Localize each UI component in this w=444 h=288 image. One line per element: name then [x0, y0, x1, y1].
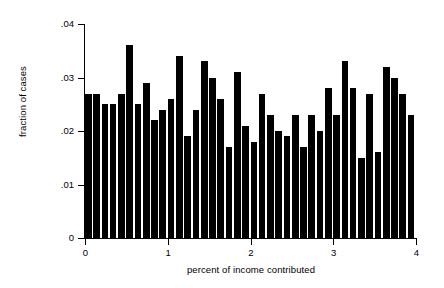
plot-area	[85, 24, 416, 238]
y-axis-tick: 0	[78, 238, 84, 239]
histogram-bar	[85, 94, 92, 238]
histogram-figure: fraction of cases 0.01.02.03.04 01234 pe…	[0, 0, 444, 288]
y-axis-title: fraction of cases	[17, 54, 28, 150]
histogram-bar	[366, 94, 373, 238]
x-axis-tick: 0	[85, 239, 86, 245]
histogram-bar	[317, 131, 324, 238]
histogram-bar	[292, 115, 299, 238]
histogram-bar	[234, 72, 241, 238]
y-axis-tick-label: .02	[61, 125, 78, 136]
histogram-bar	[209, 78, 216, 239]
y-axis-tick: .01	[78, 185, 84, 186]
histogram-bar	[110, 104, 117, 238]
y-axis-tick-label: .03	[61, 72, 78, 83]
histogram-bar	[350, 88, 357, 238]
histogram-bar	[333, 115, 340, 238]
y-axis-tick: .03	[78, 78, 84, 79]
x-axis-tick-label: 0	[75, 247, 96, 258]
x-axis-tick-label: 4	[406, 247, 427, 258]
histogram-bar	[135, 104, 142, 238]
histogram-bar	[275, 131, 282, 238]
histogram-bar	[383, 67, 390, 238]
histogram-bar	[193, 110, 200, 238]
histogram-bar	[201, 61, 208, 238]
histogram-bar	[168, 99, 175, 238]
histogram-bar	[267, 115, 274, 238]
histogram-bar	[375, 152, 382, 238]
x-axis-tick: 2	[251, 239, 252, 245]
y-axis-tick: .02	[78, 131, 84, 132]
histogram-bar	[176, 56, 183, 238]
histogram-bar	[259, 94, 266, 238]
x-axis-tick-label: 2	[241, 247, 262, 258]
y-axis-tick-label: 0	[69, 232, 78, 243]
histogram-bar	[126, 45, 133, 238]
x-axis-tick: 4	[416, 239, 417, 245]
histogram-bar	[118, 94, 125, 238]
histogram-bar	[399, 94, 406, 238]
histogram-bar	[251, 142, 258, 238]
x-axis-tick: 3	[333, 239, 334, 245]
x-axis-title: percent of income contributed	[86, 264, 416, 275]
histogram-bar	[102, 104, 109, 238]
y-axis-tick-label: .04	[61, 18, 78, 29]
x-axis-tick-label: 1	[158, 247, 179, 258]
histogram-bar	[184, 136, 191, 238]
x-axis-tick: 1	[168, 239, 169, 245]
histogram-bar	[358, 158, 365, 238]
histogram-bar	[408, 115, 415, 238]
histogram-bar	[217, 99, 224, 238]
histogram-bar	[151, 120, 158, 238]
x-axis-tick-label: 3	[323, 247, 344, 258]
histogram-bar	[284, 136, 291, 238]
y-axis-tick-label: .01	[61, 179, 78, 190]
histogram-bar	[391, 78, 398, 239]
histogram-bar	[242, 126, 249, 238]
histogram-bar	[308, 115, 315, 238]
histogram-bar	[226, 147, 233, 238]
histogram-bar	[300, 147, 307, 238]
y-axis-tick: .04	[78, 24, 84, 25]
histogram-bar	[143, 83, 150, 238]
histogram-bar	[159, 110, 166, 238]
histogram-bar	[325, 88, 332, 238]
histogram-bar	[93, 94, 100, 238]
histogram-bar	[342, 61, 349, 238]
